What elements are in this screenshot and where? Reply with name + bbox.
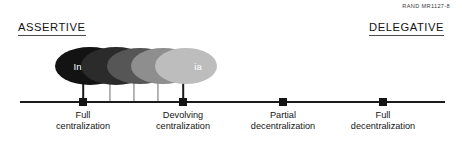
axis-tick-label-line1: Partial <box>251 110 315 121</box>
case-ellipse: ia <box>155 48 217 84</box>
case-ellipse-label: ia <box>194 61 201 72</box>
pole-label-assertive: ASSERTIVE <box>18 21 86 36</box>
axis-tick-label-line1: Full <box>56 110 110 121</box>
axis-tick-marker <box>79 98 87 106</box>
axis-tick-marker <box>179 98 187 106</box>
axis-tick-label-line2: centralization <box>56 121 110 132</box>
axis-tick-marker <box>379 98 387 106</box>
axis-tick-marker <box>279 98 287 106</box>
axis-tick-label: Fulldecentralization <box>351 110 415 133</box>
axis-tick-label-line2: decentralization <box>251 121 315 132</box>
axis-tick-label-line1: Devolving <box>156 110 210 121</box>
axis-tick-label-line2: centralization <box>156 121 210 132</box>
axis-tick-label: Partialdecentralization <box>251 110 315 133</box>
axis-tick-label: Devolvingcentralization <box>156 110 210 133</box>
pole-label-delegative: DELEGATIVE <box>369 21 444 36</box>
axis-tick-label-line1: Full <box>351 110 415 121</box>
spectrum-diagram: RAND MR1127-8 ASSERTIVE DELEGATIVE iaiai… <box>0 0 462 154</box>
source-credit: RAND MR1127-8 <box>402 3 450 9</box>
axis-tick-label: Fullcentralization <box>56 110 110 133</box>
axis-tick-label-line2: decentralization <box>351 121 415 132</box>
